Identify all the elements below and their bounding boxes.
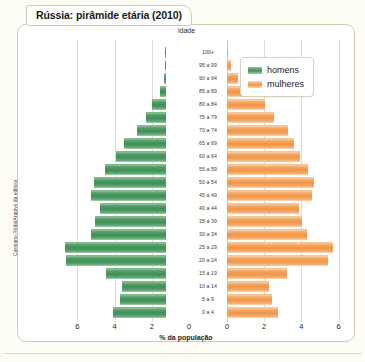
pyramid-row: 80 a 84 [17, 98, 355, 111]
bar-homens[interactable] [91, 190, 166, 201]
row-right-half [227, 216, 302, 227]
bar-homens[interactable] [66, 255, 166, 266]
row-left-half [95, 216, 166, 227]
bar-mulheres[interactable] [227, 112, 274, 123]
bar-homens[interactable] [94, 177, 166, 188]
bar-mulheres[interactable] [227, 190, 312, 201]
bar-homens[interactable] [113, 307, 166, 318]
row-left-half [66, 255, 166, 266]
pyramid-row: 0 a 4 [17, 306, 355, 319]
bar-mulheres[interactable] [227, 164, 308, 175]
bar-mulheres[interactable] [227, 125, 288, 136]
pyramid-row: 10 a 14 [17, 280, 355, 293]
bar-homens[interactable] [122, 281, 166, 292]
bar-mulheres[interactable] [227, 216, 302, 227]
pyramid-row: 35 a 39 [17, 215, 355, 228]
bar-homens[interactable] [65, 242, 166, 253]
row-right-half [227, 125, 288, 136]
pyramid-row: 70 a 74 [17, 124, 355, 137]
x-tick-right-6: 6 [337, 322, 341, 331]
x-tick-right-2: 2 [262, 322, 266, 331]
row-right-half [227, 268, 287, 279]
bar-mulheres[interactable] [227, 281, 269, 292]
row-right-half [227, 151, 300, 162]
x-tick-right-4: 4 [299, 322, 303, 331]
bar-mulheres[interactable] [227, 60, 231, 71]
bar-mulheres[interactable] [227, 47, 228, 58]
pyramid-row: 40 a 44 [17, 202, 355, 215]
row-right-half [227, 255, 328, 266]
row-right-half [227, 294, 272, 305]
pyramid-row: 55 a 59 [17, 163, 355, 176]
row-right-half [227, 60, 231, 71]
row-left-half [124, 138, 166, 149]
bar-homens[interactable] [146, 112, 166, 123]
legend-label-homens: homens [267, 65, 299, 75]
row-left-half [164, 73, 166, 84]
bar-mulheres[interactable] [227, 229, 307, 240]
pyramid-row: 50 a 54 [17, 176, 355, 189]
row-left-half [152, 99, 166, 110]
bar-mulheres[interactable] [227, 307, 278, 318]
pyramid-row: 30 a 34 [17, 228, 355, 241]
bar-homens[interactable] [164, 73, 166, 84]
row-left-half [120, 294, 167, 305]
pyramid-row: 60 a 64 [17, 150, 355, 163]
row-left-half [113, 307, 166, 318]
row-right-half [227, 190, 312, 201]
row-left-half [106, 268, 166, 279]
row-right-half [227, 203, 299, 214]
pyramid-row: 15 a 19 [17, 267, 355, 280]
pyramid-row: 45 a 49 [17, 189, 355, 202]
row-left-half [165, 47, 166, 58]
bar-homens[interactable] [105, 164, 166, 175]
bar-homens[interactable] [106, 268, 166, 279]
bar-homens[interactable] [116, 151, 166, 162]
bar-mulheres[interactable] [227, 268, 287, 279]
row-left-half [91, 229, 166, 240]
x-tick-left-6: 6 [75, 322, 79, 331]
pyramid-row: 20 a 24 [17, 254, 355, 267]
bar-homens[interactable] [160, 86, 167, 97]
bar-mulheres[interactable] [227, 138, 294, 149]
row-right-half [227, 307, 278, 318]
legend-label-mulheres: mulheres [267, 79, 304, 89]
bar-mulheres[interactable] [227, 73, 238, 84]
x-tick-right-0: 0 [225, 322, 229, 331]
bar-homens[interactable] [152, 99, 166, 110]
bar-mulheres[interactable] [227, 294, 272, 305]
bar-mulheres[interactable] [227, 99, 265, 110]
bar-mulheres[interactable] [227, 177, 314, 188]
pyramid-row: 65 a 69 [17, 137, 355, 150]
bar-mulheres[interactable] [227, 242, 333, 253]
row-right-half [227, 177, 314, 188]
age-label-column [189, 40, 227, 322]
row-left-half [137, 125, 166, 136]
row-right-half [227, 281, 269, 292]
bar-homens[interactable] [165, 60, 166, 71]
x-tick-left-0: 0 [187, 322, 191, 331]
row-right-half [227, 164, 308, 175]
legend-item-homens[interactable]: homens [248, 63, 304, 77]
bar-homens[interactable] [100, 203, 166, 214]
bar-mulheres[interactable] [227, 151, 300, 162]
legend-item-mulheres[interactable]: mulheres [248, 77, 304, 91]
bar-mulheres[interactable] [227, 203, 299, 214]
bar-homens[interactable] [95, 216, 166, 227]
row-left-half [105, 164, 166, 175]
row-left-half [94, 177, 166, 188]
bar-homens[interactable] [91, 229, 166, 240]
pyramid-row: 75 a 79 [17, 111, 355, 124]
row-right-half [227, 229, 307, 240]
bar-homens[interactable] [137, 125, 166, 136]
legend-swatch-mulheres [248, 81, 262, 88]
row-right-half [227, 112, 274, 123]
bar-homens[interactable] [120, 294, 167, 305]
bar-homens[interactable] [124, 138, 166, 149]
bar-mulheres[interactable] [227, 255, 328, 266]
pyramid-row: 5 a 9 [17, 293, 355, 306]
page-title: Rússia: pirâmide etária (2010) [26, 5, 192, 26]
row-right-half [227, 47, 228, 58]
row-left-half [100, 203, 166, 214]
bar-homens[interactable] [165, 47, 166, 58]
